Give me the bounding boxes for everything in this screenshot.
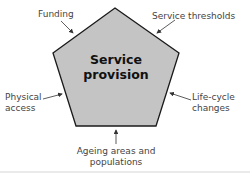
label-life-cycle-line2: changes [192,103,235,114]
label-ageing-areas: Ageing areas and populations [66,146,166,167]
center-label: Service provision [76,52,156,82]
label-ageing-line2: populations [66,157,166,168]
center-label-line1: Service [76,52,156,67]
service-thresholds-arrow [157,20,175,33]
center-label-line2: provision [76,67,156,82]
label-life-cycle-line1: Life-cycle [192,92,235,103]
label-funding: Funding [38,9,74,20]
label-life-cycle-changes: Life-cycle changes [192,92,235,113]
bottom-divider [0,171,250,173]
label-physical-access-line1: Physical [5,92,42,103]
physical-access-arrow [43,94,62,99]
label-physical-access: Physical access [5,92,42,113]
label-ageing-line1: Ageing areas and [66,146,166,157]
life-cycle-arrow [170,93,191,100]
label-physical-access-line2: access [5,103,42,114]
funding-arrow [61,21,73,33]
label-service-thresholds: Service thresholds [152,11,235,22]
